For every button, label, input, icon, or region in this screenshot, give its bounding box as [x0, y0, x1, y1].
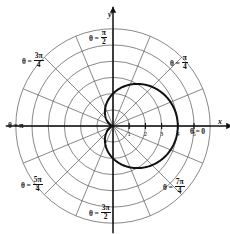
angle-label-theta-7pi-4: θ=7π4	[163, 178, 185, 194]
angle-label-theta-3pi-2: θ=3π2	[89, 204, 111, 220]
angle-label-theta-0: θ=0	[190, 128, 205, 136]
angle-label-theta-pi: θ=π	[8, 122, 23, 130]
angle-label-theta-pi-4: θ=π4	[170, 54, 188, 70]
x-tick-label-2: 2	[144, 130, 147, 137]
x-axis-arrow	[226, 123, 230, 129]
angle-label-theta-3pi-4: θ=3π4	[22, 52, 44, 68]
angle-label-theta-5pi-4: θ=5π4	[21, 176, 43, 192]
y-axis-label: y	[108, 11, 112, 19]
x-axis-label: x	[218, 118, 222, 126]
cartesian-axes	[6, 7, 230, 233]
polar-plot-figure: 12345 y x θ=π2 θ=π4 θ=3π4 θ=π θ=0 θ=5π4 …	[0, 0, 230, 234]
grid-spoke-225	[44, 126, 113, 195]
polar-plot-canvas: 12345	[0, 0, 230, 234]
angle-label-theta-pi-2: θ=π2	[89, 29, 107, 45]
grid-spoke-135	[44, 57, 113, 126]
x-tick-label-1: 1	[128, 130, 131, 137]
x-axis-ticks: 12345	[128, 123, 196, 137]
x-tick-label-3: 3	[160, 130, 163, 137]
